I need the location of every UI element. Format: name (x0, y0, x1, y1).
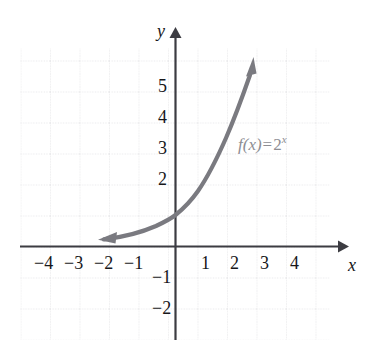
x-tick-label-neg4: −4 (34, 254, 53, 272)
x-tick-label-pos4: 4 (290, 254, 299, 272)
function-name-text: f(x) (238, 135, 262, 154)
y-tick-label-neg2: −2 (152, 299, 171, 317)
function-base-text: 2 (273, 135, 282, 154)
y-tick-label-pos4: 4 (158, 108, 167, 126)
y-tick-label-pos3: 3 (158, 139, 167, 157)
x-tick-label-pos1: 1 (201, 254, 210, 272)
function-exponent-text: x (282, 133, 287, 145)
equals-sign: = (262, 135, 274, 154)
x-axis-label: x (348, 256, 356, 274)
x-tick-label-neg2: −2 (94, 254, 113, 272)
y-tick-label-pos2: 2 (158, 170, 167, 188)
x-tick-label-neg3: −3 (64, 254, 83, 272)
x-tick-label-pos2: 2 (230, 254, 239, 272)
coordinate-plane-svg (0, 0, 381, 353)
function-equation-label: f(x)=2x (238, 136, 287, 153)
y-tick-label-pos5: 5 (158, 77, 167, 95)
y-tick-label-neg1: −1 (152, 268, 171, 286)
graph-figure: y x −4 −3 −2 −1 1 2 3 4 5 4 3 2 −1 −2 f(… (0, 0, 381, 353)
x-tick-label-neg1: −1 (124, 254, 143, 272)
x-tick-label-pos3: 3 (260, 254, 269, 272)
y-axis-label: y (157, 22, 165, 40)
